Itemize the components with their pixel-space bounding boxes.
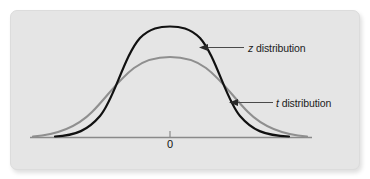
z-leader-arrowhead (199, 44, 208, 51)
t-distribution-curve (33, 57, 307, 137)
x-axis-zero-label: 0 (160, 138, 180, 150)
t-label-text: distribution (279, 97, 331, 109)
distribution-plot (0, 0, 370, 179)
z-distribution-label: z distribution (248, 42, 306, 54)
figure-root: z distribution t distribution 0 (0, 0, 370, 179)
z-label-text: distribution (253, 42, 305, 54)
t-distribution-label: t distribution (276, 97, 331, 109)
